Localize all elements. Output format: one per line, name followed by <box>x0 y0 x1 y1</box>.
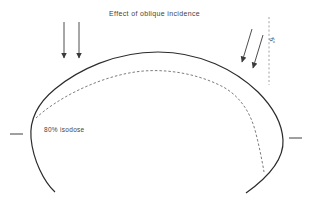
oblique-beam-arrows <box>242 29 263 68</box>
diagonal-down-left-arrow-icon <box>253 35 263 68</box>
isodose-label: 80% isodose <box>44 127 85 134</box>
diagram-title: Effect of oblique incidence <box>109 10 200 17</box>
isodose-curve <box>36 71 264 172</box>
diagram-canvas <box>0 0 309 200</box>
body-contour-curve <box>31 52 283 193</box>
diagonal-down-left-arrow-icon <box>242 29 252 62</box>
normal-beam-arrows <box>64 22 79 58</box>
oblique-incidence-diagram: Effect of oblique incidence 80% isodose … <box>0 0 309 200</box>
